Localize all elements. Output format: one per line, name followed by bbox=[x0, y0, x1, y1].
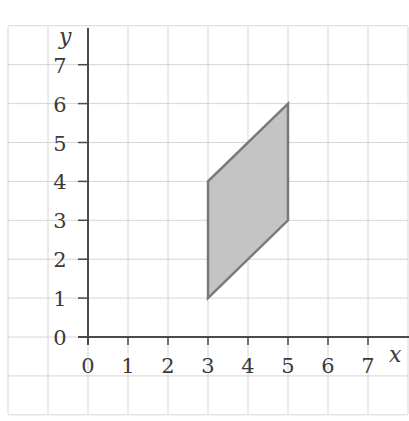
x-axis-ticks: 01234567 bbox=[81, 337, 374, 378]
x-tick-label: 2 bbox=[161, 354, 174, 378]
y-tick-label: 6 bbox=[53, 93, 66, 117]
coordinate-grid: 01234567 01234567 x y bbox=[0, 0, 409, 421]
x-tick-label: 0 bbox=[81, 354, 94, 378]
x-tick-label: 1 bbox=[121, 354, 134, 378]
y-axis-label: y bbox=[58, 24, 72, 49]
y-axis-ticks: 01234567 bbox=[53, 54, 88, 350]
y-tick-label: 2 bbox=[53, 248, 66, 272]
y-tick-label: 0 bbox=[53, 326, 66, 350]
y-tick-label: 5 bbox=[53, 132, 66, 156]
x-tick-label: 6 bbox=[321, 354, 334, 378]
y-tick-label: 3 bbox=[53, 209, 66, 233]
x-tick-label: 7 bbox=[361, 354, 374, 378]
x-tick-label: 5 bbox=[281, 354, 294, 378]
y-tick-label: 7 bbox=[53, 54, 66, 78]
x-axis-label: x bbox=[389, 342, 402, 367]
y-tick-label: 1 bbox=[53, 287, 66, 311]
x-tick-label: 3 bbox=[201, 354, 214, 378]
x-tick-label: 4 bbox=[241, 354, 254, 378]
y-tick-label: 4 bbox=[53, 170, 66, 194]
